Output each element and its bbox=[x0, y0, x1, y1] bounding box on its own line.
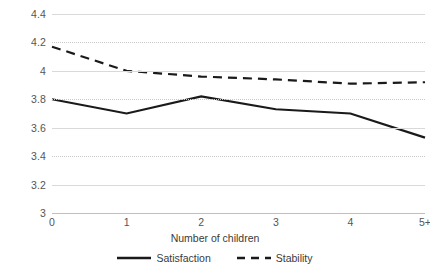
x-axis: 012345+ bbox=[52, 216, 425, 232]
chart-legend: SatisfactionStability bbox=[0, 252, 430, 264]
x-tick-label: 3 bbox=[273, 216, 279, 228]
x-tick-label: 1 bbox=[124, 216, 130, 228]
series-layer bbox=[52, 14, 425, 213]
gridline bbox=[52, 185, 425, 186]
gridline bbox=[52, 128, 425, 129]
legend-label: Stability bbox=[276, 252, 313, 264]
gridline bbox=[52, 71, 425, 72]
x-axis-line bbox=[52, 213, 425, 214]
legend-entry-stability[interactable]: Stability bbox=[237, 252, 313, 264]
series-line-satisfaction bbox=[52, 96, 425, 137]
x-tick-label: 5+ bbox=[419, 216, 430, 228]
y-tick-label: 4.2 bbox=[31, 36, 46, 48]
series-line-stability bbox=[52, 47, 425, 84]
chart-page: 4.44.243.83.63.43.23 012345+ Number of c… bbox=[0, 0, 430, 280]
x-tick-label: 0 bbox=[49, 216, 55, 228]
x-axis-title: Number of children bbox=[0, 232, 430, 244]
y-tick-label: 3.6 bbox=[31, 122, 46, 134]
y-axis: 4.44.243.83.63.43.23 bbox=[0, 14, 46, 213]
legend-swatch-solid-icon bbox=[117, 253, 151, 263]
gridline bbox=[52, 156, 425, 157]
gridline bbox=[52, 42, 425, 43]
y-tick-label: 3.4 bbox=[31, 150, 46, 162]
y-tick-label: 3 bbox=[40, 207, 46, 219]
y-tick-label: 4.4 bbox=[31, 8, 46, 20]
x-tick-label: 2 bbox=[198, 216, 204, 228]
x-tick-label: 4 bbox=[347, 216, 353, 228]
gridline bbox=[52, 99, 425, 100]
gridline bbox=[52, 14, 425, 15]
legend-label: Satisfaction bbox=[156, 252, 210, 264]
legend-entry-satisfaction[interactable]: Satisfaction bbox=[117, 252, 210, 264]
legend-swatch-dashed-icon bbox=[237, 253, 271, 263]
y-tick-label: 4 bbox=[40, 65, 46, 77]
y-tick-label: 3.2 bbox=[31, 179, 46, 191]
y-tick-label: 3.8 bbox=[31, 93, 46, 105]
plot-area bbox=[52, 14, 425, 213]
